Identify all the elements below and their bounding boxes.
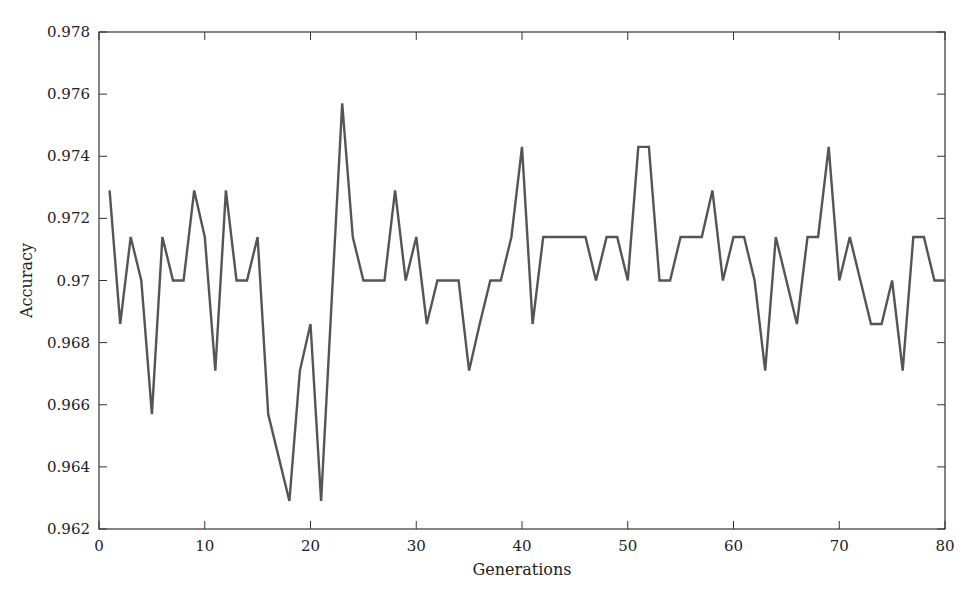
x-tick-label: 60 [724,537,743,555]
y-tick-label: 0.974 [47,147,90,165]
y-tick-label: 0.972 [47,209,90,227]
y-tick-label: 0.962 [47,520,90,538]
x-tick-label: 40 [512,537,531,555]
x-tick-label: 0 [94,537,104,555]
x-axis-title: Generations [473,560,572,579]
y-tick-label: 0.968 [47,334,90,352]
plot-border [99,32,945,529]
x-tick-label: 10 [195,537,214,555]
x-axis: 01020304050607080 [94,32,954,555]
x-tick-label: 50 [618,537,637,555]
y-tick-label: 0.964 [47,458,90,476]
x-tick-label: 70 [830,537,849,555]
x-tick-label: 20 [301,537,320,555]
y-tick-label: 0.966 [47,396,90,414]
accuracy-line-chart: 0.9620.9640.9660.9680.970.9720.9740.9760… [0,0,976,605]
y-tick-label: 0.97 [57,272,90,290]
accuracy-line [110,103,945,501]
x-tick-label: 80 [935,537,954,555]
data-series [110,103,945,501]
y-tick-label: 0.978 [47,23,90,41]
y-tick-label: 0.976 [47,85,90,103]
y-axis-title: Accuracy [17,243,36,319]
x-tick-label: 30 [407,537,426,555]
plot-frame [99,32,945,529]
